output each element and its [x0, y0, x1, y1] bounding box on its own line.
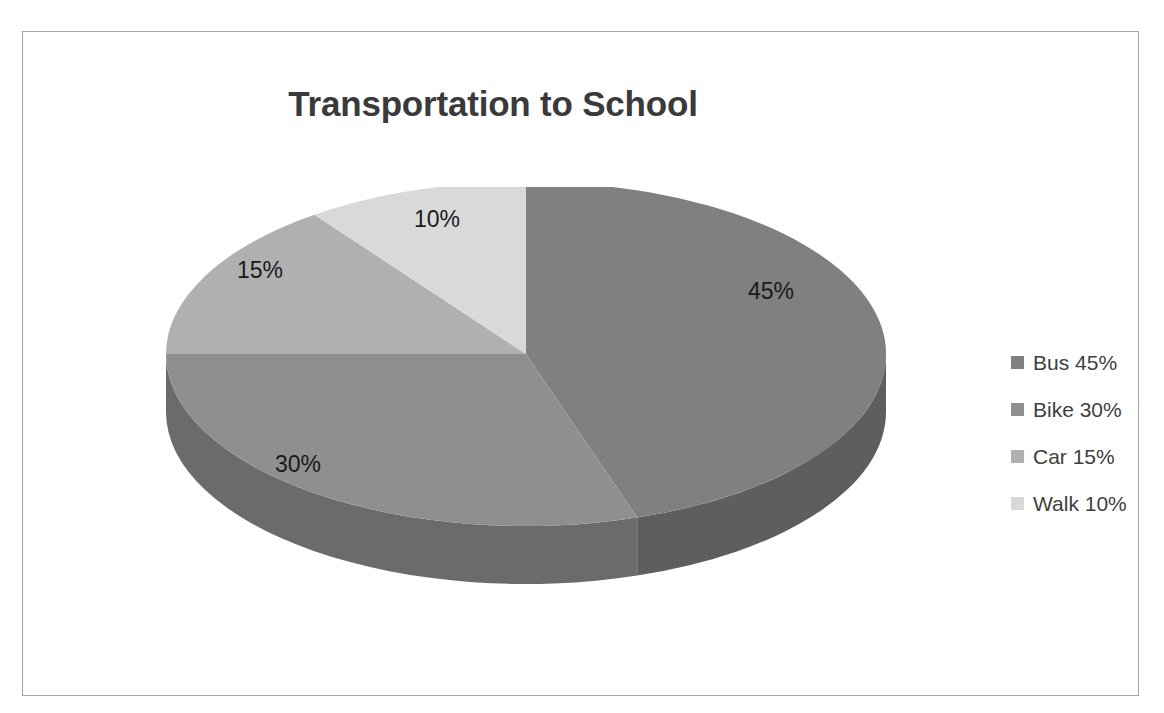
scan-artifact — [0, 0, 1164, 18]
chart-plot-frame: Transportation to School 45% 30% 15% 10%… — [22, 31, 1139, 696]
legend-label-bike: Bike 30% — [1033, 398, 1122, 422]
legend-label-bus: Bus 45% — [1033, 351, 1117, 375]
legend-swatch-icon-bus — [1011, 356, 1024, 369]
chart-legend: Bus 45% Bike 30% Car 15% Walk 10% — [1011, 339, 1161, 527]
legend-label-car: Car 15% — [1033, 445, 1115, 469]
legend-swatch-icon-walk — [1011, 497, 1024, 510]
legend-item-walk: Walk 10% — [1011, 480, 1161, 527]
chart-title: Transportation to School — [23, 84, 963, 124]
data-label-bus: 45% — [748, 278, 794, 305]
legend-label-walk: Walk 10% — [1033, 492, 1127, 516]
legend-item-car: Car 15% — [1011, 433, 1161, 480]
legend-item-bike: Bike 30% — [1011, 386, 1161, 433]
data-label-car: 15% — [237, 257, 283, 284]
legend-swatch-icon-bike — [1011, 403, 1024, 416]
legend-swatch-icon-car — [1011, 450, 1024, 463]
legend-item-bus: Bus 45% — [1011, 339, 1161, 386]
pie-chart-figure: Transportation to School 45% 30% 15% 10%… — [0, 0, 1164, 713]
data-label-bike: 30% — [275, 451, 321, 478]
data-label-walk: 10% — [414, 206, 460, 233]
